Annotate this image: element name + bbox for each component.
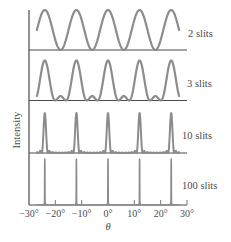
panel-label-10-slits: 10 slits <box>182 130 212 141</box>
x-tick-label: 0° <box>104 208 113 219</box>
panel-label-3-slits: 3 slits <box>187 78 212 89</box>
intensity-curve-10-slits <box>37 113 179 153</box>
multi-slit-interference-figure: 2 slits 3 slits 10 slits 100 slits Inten… <box>0 0 231 242</box>
x-tick-label: −10° <box>72 208 92 219</box>
x-axis-tick-labels: −30°−20°−10°0°10°20°30° <box>19 208 194 219</box>
intensity-curve-3-slits <box>37 61 179 101</box>
intensity-curve-2-slits <box>37 10 179 50</box>
x-tick-label: 10° <box>127 208 141 219</box>
x-tick-label: −20° <box>46 208 66 219</box>
x-tick-label: 30° <box>180 208 194 219</box>
panel-label-2-slits: 2 slits <box>188 28 213 39</box>
x-tick-label: −30° <box>19 208 39 219</box>
x-tick-label: 20° <box>154 208 168 219</box>
panel-label-100-slits: 100 slits <box>182 180 217 191</box>
x-axis-label: θ <box>105 221 110 232</box>
y-axis-label: Intensity <box>11 111 22 148</box>
intensity-curve-100-slits <box>37 159 179 205</box>
